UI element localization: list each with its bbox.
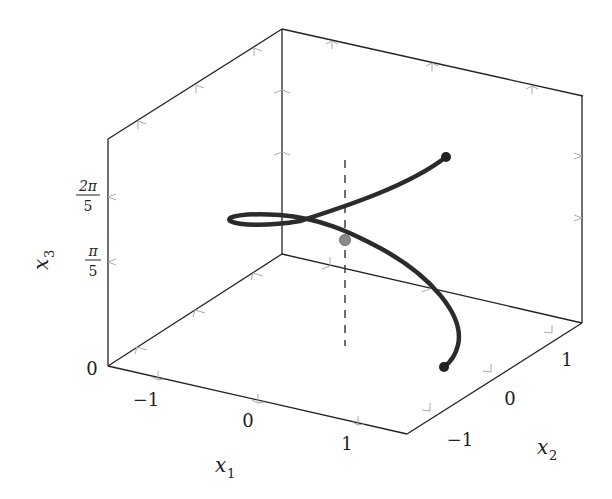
start-point-marker xyxy=(441,152,451,162)
x3-tick-pi5-den: 5 xyxy=(89,263,98,279)
x3-tick-0: 0 xyxy=(86,358,97,379)
x2-tick-0: 0 xyxy=(504,388,515,409)
x1-tick-0: 0 xyxy=(242,410,253,431)
svg-text:3: 3 xyxy=(42,250,57,258)
svg-text:2: 2 xyxy=(549,448,557,463)
x2-axis-label: x 2 xyxy=(537,435,557,463)
end-point-marker xyxy=(439,362,449,372)
x1-tick-1: 1 xyxy=(341,433,352,454)
svg-text:x: x xyxy=(215,453,226,477)
svg-text:x: x xyxy=(537,435,548,459)
x2-tick-neg1: −1 xyxy=(447,429,474,450)
x1-axis-label: x 1 xyxy=(215,453,235,481)
top-left-edge xyxy=(108,29,282,139)
x3-tick-pi5-num: π xyxy=(87,243,98,259)
x2-tick-labels: −1 0 1 xyxy=(447,349,573,450)
trajectory-curve xyxy=(229,157,459,367)
top-right-edge xyxy=(282,29,583,96)
x3-tick-labels: 0 π 5 2π 5 xyxy=(76,178,101,379)
x1-tick-neg1: −1 xyxy=(133,389,160,410)
x3-axis-label: x 3 xyxy=(29,250,57,270)
svg-text:1: 1 xyxy=(227,466,235,481)
x2-tick-1: 1 xyxy=(561,349,572,370)
svg-text:x: x xyxy=(29,259,53,270)
chart-3d: 0 π 5 2π 5 −1 0 1 −1 0 1 x 1 x 2 x 3 xyxy=(0,0,612,499)
x2-axis-line xyxy=(407,323,582,434)
x3-tick-2pi5-num: 2π xyxy=(78,178,98,194)
x3-tick-2pi5-den: 5 xyxy=(84,198,93,214)
reference-point-marker xyxy=(340,235,351,246)
x1-tick-labels: −1 0 1 xyxy=(133,389,353,454)
